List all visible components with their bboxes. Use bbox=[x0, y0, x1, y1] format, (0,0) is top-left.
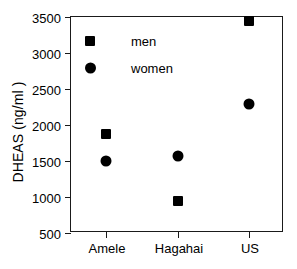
y-tick-1000: 1000 bbox=[65, 197, 71, 198]
y-tick-label-500: 500 bbox=[39, 228, 61, 241]
legend-label-women: women bbox=[131, 62, 173, 75]
y-tick-3000: 3000 bbox=[65, 53, 71, 54]
y-axis-title: DHEAS (ng/ml ) bbox=[10, 32, 26, 232]
y-tick-label-2000: 2000 bbox=[32, 120, 61, 133]
y-tick-label-2500: 2500 bbox=[32, 84, 61, 97]
data-point-men-us bbox=[244, 16, 254, 26]
x-tick-hagahai: Hagahai bbox=[178, 231, 179, 238]
x-tick-amele: Amele bbox=[106, 231, 107, 238]
chart-figure: DHEAS (ng/ml ) 3500 3000 2500 2000 1500 … bbox=[0, 0, 297, 269]
y-tick-label-1500: 1500 bbox=[32, 156, 61, 169]
data-point-women-us bbox=[244, 99, 255, 110]
x-tick-us: US bbox=[249, 231, 250, 238]
y-tick-1500: 1500 bbox=[65, 161, 71, 162]
y-tick-label-3500: 3500 bbox=[32, 12, 61, 25]
data-point-women-amele bbox=[101, 156, 112, 167]
legend-circle-marker-icon bbox=[85, 63, 96, 74]
y-tick-label-3000: 3000 bbox=[32, 48, 61, 61]
legend-square-marker-icon bbox=[85, 36, 95, 46]
y-tick-2500: 2500 bbox=[65, 89, 71, 90]
x-tick-label-us: US bbox=[241, 242, 259, 255]
y-tick-2000: 2000 bbox=[65, 125, 71, 126]
plot-area: 3500 3000 2500 2000 1500 1000 500 Amele … bbox=[70, 16, 283, 232]
x-tick-label-amele: Amele bbox=[89, 242, 126, 255]
data-point-men-amele bbox=[101, 129, 111, 139]
y-tick-3500: 3500 bbox=[65, 17, 71, 18]
legend-label-men: men bbox=[131, 35, 156, 48]
y-tick-500: 500 bbox=[65, 233, 71, 234]
x-tick-label-hagahai: Hagahai bbox=[155, 242, 203, 255]
y-tick-label-1000: 1000 bbox=[32, 192, 61, 205]
data-point-women-hagahai bbox=[173, 151, 184, 162]
data-point-men-hagahai bbox=[173, 196, 183, 206]
